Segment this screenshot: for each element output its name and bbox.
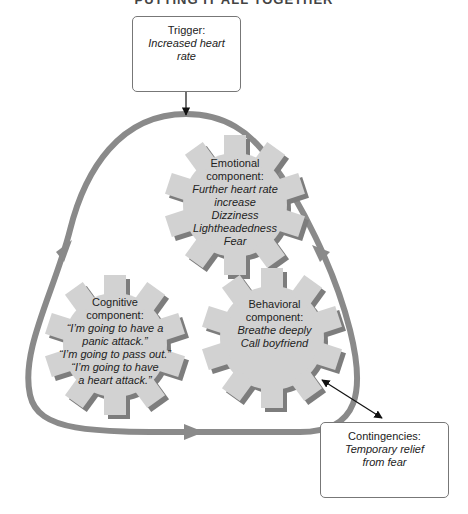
cognitive-item: “I’m going to have a bbox=[50, 322, 180, 335]
emotional-item: Fear bbox=[170, 235, 300, 248]
emotional-item: Further heart rate bbox=[170, 183, 300, 196]
cognitive-item: “I’m going to pass out.” bbox=[50, 348, 180, 361]
emotional-item: Dizziness bbox=[170, 209, 300, 222]
contingencies-line-1: Temporary relief bbox=[321, 443, 448, 456]
trigger-line-2: rate bbox=[133, 50, 240, 63]
contingencies-box: Contingencies: Temporary relief from fea… bbox=[320, 422, 449, 498]
cognitive-item: “I’m going to have bbox=[50, 361, 180, 374]
contingencies-heading: Contingencies: bbox=[321, 430, 448, 443]
loop-arrow-bottom-icon bbox=[184, 424, 204, 440]
trigger-heading: Trigger: bbox=[133, 24, 240, 37]
emotional-item: Lightheadedness bbox=[170, 222, 300, 235]
behavioral-component-text: Behavioral component: Breathe deeply Cal… bbox=[212, 298, 337, 350]
cognitive-component-text: Cognitive component: “I’m going to have … bbox=[50, 296, 180, 387]
emotional-component-text: Emotional component: Further heart rate … bbox=[170, 157, 300, 248]
behavioral-heading-1: Behavioral bbox=[212, 298, 337, 311]
contingencies-line-2: from fear bbox=[321, 456, 448, 469]
behavioral-item: Call boyfriend bbox=[212, 337, 337, 350]
emotional-item: increase bbox=[170, 196, 300, 209]
cognitive-heading-2: component: bbox=[50, 309, 180, 322]
cognitive-heading-1: Cognitive bbox=[50, 296, 180, 309]
emotional-heading-1: Emotional bbox=[170, 157, 300, 170]
cognitive-item: a heart attack.” bbox=[50, 374, 180, 387]
behavioral-item: Breathe deeply bbox=[212, 324, 337, 337]
cognitive-item: panic attack.” bbox=[50, 335, 180, 348]
behavioral-heading-2: component: bbox=[212, 311, 337, 324]
emotional-heading-2: component: bbox=[170, 170, 300, 183]
trigger-box: Trigger: Increased heart rate bbox=[132, 16, 241, 92]
trigger-line-1: Increased heart bbox=[133, 37, 240, 50]
